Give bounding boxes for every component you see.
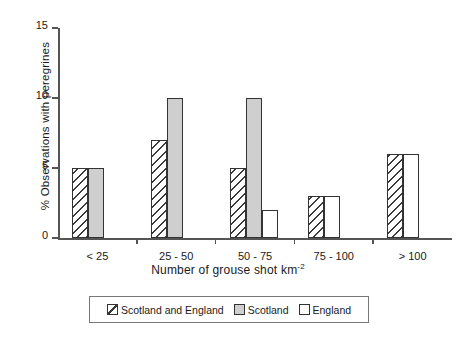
y-axis-tick-label: 5 — [42, 159, 48, 171]
bar-scotland-and-england — [151, 140, 167, 238]
legend-item[interactable]: Scotland — [234, 304, 289, 316]
legend-label: England — [313, 304, 352, 316]
bar-scotland-and-england — [308, 196, 324, 238]
y-axis-tick-label: 10 — [36, 89, 48, 101]
x-axis-tick — [372, 238, 374, 244]
bar-scotland-and-england — [230, 168, 246, 238]
chart-legend: Scotland and EnglandScotlandEngland — [89, 296, 369, 323]
y-axis-tick: 0 — [52, 237, 58, 239]
x-axis-title-base: Number of grouse shot km — [151, 263, 297, 277]
x-axis-line — [58, 238, 452, 240]
y-axis-tick: 10 — [52, 97, 58, 99]
y-axis-tick: 5 — [52, 167, 58, 169]
plot-area: 051015< 2525 - 5050 - 7575 - 100> 100 — [58, 28, 452, 238]
bar-england — [324, 196, 340, 238]
y-axis-tick: 15 — [52, 27, 58, 29]
legend-swatch-icon — [234, 304, 245, 315]
x-axis-tick — [136, 238, 138, 244]
bar-scotland — [167, 98, 183, 238]
bar-england — [403, 154, 419, 238]
x-axis-tick — [215, 238, 217, 244]
legend-label: Scotland and England — [121, 304, 224, 316]
x-axis-title-exponent: -2 — [297, 262, 305, 271]
y-axis-line — [58, 28, 60, 238]
y-axis-title: % Observations with peregrines — [39, 11, 51, 241]
legend-swatch-icon — [107, 304, 118, 315]
legend-item[interactable]: Scotland and England — [107, 304, 224, 316]
x-axis-title: Number of grouse shot km-2 — [0, 262, 456, 277]
x-axis-category-label: < 25 — [57, 250, 137, 262]
bar-scotland-and-england — [72, 168, 88, 238]
x-axis-category-label: > 100 — [373, 250, 453, 262]
x-axis-category-label: 50 - 75 — [215, 250, 295, 262]
legend-item[interactable]: England — [299, 304, 352, 316]
bar-scotland — [246, 98, 262, 238]
chart-figure: % Observations with peregrines 051015< 2… — [0, 0, 456, 341]
bar-scotland-and-england — [387, 154, 403, 238]
y-axis-tick-label: 15 — [36, 19, 48, 31]
bar-scotland — [88, 168, 104, 238]
x-axis-tick — [294, 238, 296, 244]
x-axis-category-label: 75 - 100 — [294, 250, 374, 262]
x-axis-category-label: 25 - 50 — [136, 250, 216, 262]
legend-label: Scotland — [248, 304, 289, 316]
bar-england — [262, 210, 278, 238]
y-axis-tick-label: 0 — [42, 229, 48, 241]
legend-swatch-icon — [299, 304, 310, 315]
